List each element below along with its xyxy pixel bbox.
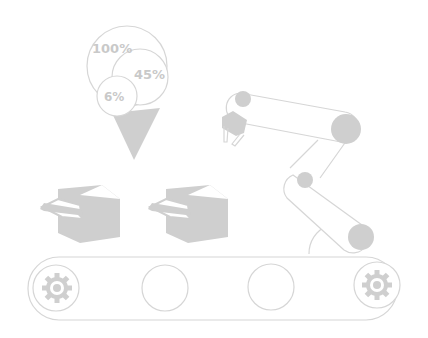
bubble-100-label: 100% [92, 41, 132, 56]
gear-icon [42, 273, 72, 303]
bubble-6-label: 6% [104, 90, 124, 104]
box-1 [40, 185, 120, 243]
robot-arm [226, 91, 374, 254]
roller-1 [142, 265, 188, 311]
conveyor-belt [28, 257, 400, 320]
percentage-cone: 100% 45% 6% [87, 26, 168, 160]
gear-icon [362, 270, 392, 300]
box-2 [148, 185, 228, 243]
bubble-45-label: 45% [134, 67, 165, 82]
factory-illustration: 100% 45% 6% [0, 0, 428, 338]
roller-2 [248, 264, 294, 310]
